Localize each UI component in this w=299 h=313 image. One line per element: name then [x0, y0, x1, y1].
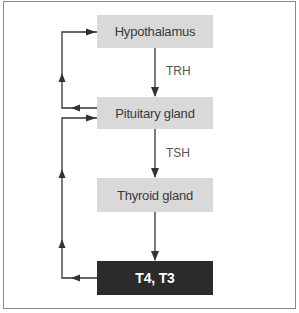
node-t4-t3: T4, T3 — [97, 261, 213, 295]
node-thyroid-label: Thyroid gland — [117, 188, 193, 203]
node-thyroid-gland: Thyroid gland — [97, 178, 213, 212]
feedback-loop-hormones-pituitary — [62, 118, 97, 278]
node-pituitary-label: Pituitary gland — [115, 106, 194, 121]
node-hypothalamus-label: Hypothalamus — [115, 24, 196, 39]
edge-label-tsh: TSH — [166, 146, 190, 160]
node-t4-t3-label: T4, T3 — [135, 270, 174, 286]
node-hypothalamus: Hypothalamus — [97, 15, 213, 48]
feedback-loop-pituitary-hypothalamus — [62, 32, 97, 108]
node-pituitary-gland: Pituitary gland — [97, 97, 213, 129]
edge-label-trh: TRH — [166, 64, 191, 78]
